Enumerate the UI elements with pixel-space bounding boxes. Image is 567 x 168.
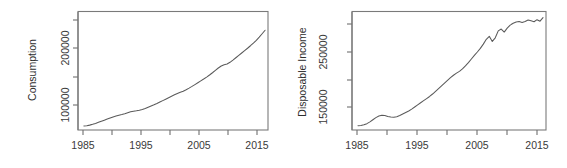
consumption-axis-title-group: Consumption — [26, 39, 38, 101]
disposable-income-y-ticklabels: 250000 150000 — [317, 34, 329, 124]
disposable-income-y-axis — [347, 12, 352, 130]
disposable-income-plot-svg: Disposable Income 250000 150000 — [284, 0, 567, 168]
x-ticklabel-2005: 2005 — [465, 139, 489, 151]
disposable-income-axis-title-group: Disposable Income — [296, 27, 308, 116]
disposable-income-series-line — [358, 18, 543, 126]
y-axis-title: Disposable Income — [296, 27, 308, 116]
consumption-plot-box — [78, 12, 268, 131]
disposable-income-x-ticklabels: 1985 1995 2005 2015 — [345, 139, 549, 151]
consumption-y-ticklabels: 200000 100000 — [59, 30, 71, 122]
x-ticklabel-2015: 2015 — [525, 139, 549, 151]
consumption-x-axis — [83, 130, 257, 135]
x-ticklabel-2005: 2005 — [187, 139, 211, 151]
disposable-income-plot-box — [352, 12, 546, 131]
x-ticklabel-1985: 1985 — [345, 139, 369, 151]
consumption-y-axis — [73, 12, 78, 130]
y-axis-title: Consumption — [26, 39, 38, 101]
consumption-x-ticklabels: 1985 1995 2005 2015 — [71, 139, 269, 151]
x-ticklabel-1985: 1985 — [71, 139, 95, 151]
y-ticklabel-250000: 250000 — [317, 34, 329, 69]
x-ticklabel-1995: 1995 — [405, 139, 429, 151]
consumption-series-line — [84, 30, 265, 126]
x-ticklabel-2015: 2015 — [245, 139, 269, 151]
chart-panel-consumption: Consumption 200000 100000 — [0, 0, 283, 168]
y-ticklabel-200000: 200000 — [59, 30, 71, 65]
y-ticklabel-100000: 100000 — [59, 87, 71, 122]
y-ticklabel-150000: 150000 — [317, 89, 329, 124]
disposable-income-x-axis — [357, 130, 537, 135]
figure-two-panel-line-charts: Consumption 200000 100000 — [0, 0, 567, 168]
x-ticklabel-1995: 1995 — [129, 139, 153, 151]
chart-panel-disposable-income: Disposable Income 250000 150000 — [284, 0, 567, 168]
consumption-plot-svg: Consumption 200000 100000 — [0, 0, 283, 168]
